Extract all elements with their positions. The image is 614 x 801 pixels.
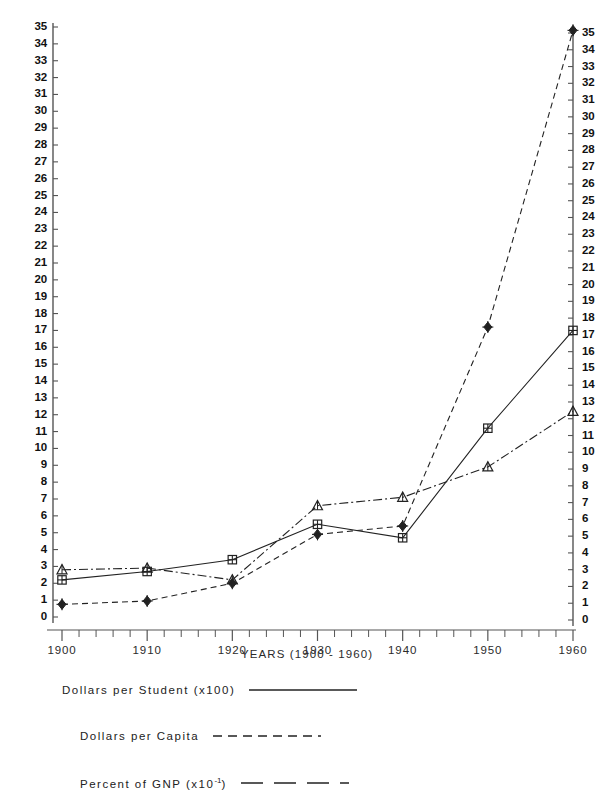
y-axis-left-tick-35: 35 — [35, 21, 47, 33]
y-axis-right-tick-31: 31 — [582, 94, 594, 106]
legend-item-1: Dollars per Capita — [80, 730, 323, 742]
legend-label-0: Dollars per Student (x100) — [62, 684, 235, 696]
y-axis-right-tick-7: 7 — [582, 497, 588, 509]
y-axis-right-tick-1: 1 — [582, 597, 588, 609]
y-axis-left-tick-15: 15 — [35, 358, 47, 370]
x-axis-tick-1950: 1950 — [473, 644, 502, 656]
y-axis-left-tick-9: 9 — [41, 459, 47, 471]
legend-item-0: Dollars per Student (x100) — [62, 684, 359, 696]
y-axis-right-tick-6: 6 — [582, 513, 588, 525]
legend-swatch-1 — [211, 730, 323, 742]
legend-exponent-2: -1 — [214, 776, 221, 785]
series-line-1 — [62, 30, 573, 604]
x-axis-tick-1910: 1910 — [133, 644, 162, 656]
y-axis-left-tick-3: 3 — [41, 560, 47, 572]
y-axis-right-tick-33: 33 — [582, 61, 594, 73]
y-axis-right-tick-0: 0 — [582, 614, 588, 626]
y-axis-right-tick-14: 14 — [582, 379, 594, 391]
y-axis-right-tick-27: 27 — [582, 161, 594, 173]
y-axis-right-tick-10: 10 — [582, 446, 594, 458]
y-axis-left-tick-22: 22 — [35, 240, 47, 252]
y-axis-left-tick-21: 21 — [35, 257, 47, 269]
y-axis-left-tick-24: 24 — [35, 206, 47, 218]
y-axis-left-tick-7: 7 — [41, 493, 47, 505]
y-axis-left-tick-30: 30 — [35, 105, 47, 117]
y-axis-right-tick-23: 23 — [582, 228, 594, 240]
y-axis-right-tick-8: 8 — [582, 480, 588, 492]
y-axis-left-tick-34: 34 — [35, 38, 47, 50]
y-axis-right-tick-11: 11 — [582, 430, 594, 442]
series-line-0 — [62, 330, 573, 580]
data-point-1-4 — [397, 520, 408, 532]
chart-page: 3534333231302928272625242322212019181716… — [0, 0, 614, 801]
y-axis-left-tick-28: 28 — [35, 139, 47, 151]
x-axis-title: YEARS (1900 - 1960) — [241, 648, 373, 660]
y-axis-left-tick-0: 0 — [41, 611, 47, 623]
y-axis-right-tick-9: 9 — [582, 463, 588, 475]
y-axis-right-tick-17: 17 — [582, 329, 594, 341]
y-axis-left-tick-20: 20 — [35, 274, 47, 286]
x-axis-tick-1960: 1960 — [558, 644, 587, 656]
y-axis-right-tick-22: 22 — [582, 245, 594, 257]
series-line-2 — [62, 411, 573, 580]
y-axis-left-tick-13: 13 — [35, 392, 47, 404]
data-point-1-1 — [142, 595, 153, 607]
legend-label-1: Dollars per Capita — [80, 730, 199, 742]
y-axis-left-tick-31: 31 — [35, 88, 47, 100]
chart-legend: Dollars per Student (x100)Dollars per Ca… — [0, 670, 614, 801]
y-axis-right-tick-4: 4 — [582, 547, 588, 559]
y-axis-right-tick-35: 35 — [582, 27, 594, 39]
series-lines — [62, 30, 573, 604]
y-axis-right-tick-30: 30 — [582, 111, 594, 123]
y-axis-left-tick-19: 19 — [35, 291, 47, 303]
chart-plot-region: 3534333231302928272625242322212019181716… — [0, 0, 614, 660]
data-point-0-2 — [228, 555, 236, 563]
y-axis-left-tick-6: 6 — [41, 510, 47, 522]
y-axis-left-tick-2: 2 — [41, 577, 47, 589]
y-axis-right-tick-34: 34 — [582, 44, 594, 56]
data-point-1-6 — [568, 24, 579, 36]
y-axis-left-tick-33: 33 — [35, 55, 47, 67]
y-axis-right-tick-24: 24 — [582, 211, 594, 223]
y-axis-left-tick-25: 25 — [35, 190, 47, 202]
y-axis-right-tick-15: 15 — [582, 362, 594, 374]
y-axis-right-tick-13: 13 — [582, 396, 594, 408]
y-axis-left-tick-29: 29 — [35, 122, 47, 134]
y-axis-right-tick-16: 16 — [582, 346, 594, 358]
legend-item-2: Percent of GNP (x10-1) — [80, 776, 351, 790]
data-point-1-3 — [312, 528, 323, 540]
legend-swatch-0 — [247, 684, 359, 696]
x-axis-tick-1900: 1900 — [47, 644, 76, 656]
y-axis-left-tick-18: 18 — [35, 308, 47, 320]
legend-swatch-2 — [239, 777, 351, 789]
data-point-0-3 — [313, 520, 321, 528]
y-axis-right-tick-20: 20 — [582, 279, 594, 291]
axis-lines — [47, 23, 576, 630]
y-axis-left-tick-8: 8 — [41, 476, 47, 488]
y-axis-left-tick-32: 32 — [35, 72, 47, 84]
y-axis-left-tick-17: 17 — [35, 324, 47, 336]
data-point-2-4 — [398, 492, 408, 501]
y-axis-left-tick-12: 12 — [35, 409, 47, 421]
y-axis-left-tick-5: 5 — [41, 527, 47, 539]
data-point-2-5 — [483, 462, 493, 471]
series-markers — [57, 24, 579, 610]
chart-svg — [0, 0, 614, 660]
y-axis-left-tick-10: 10 — [35, 442, 47, 454]
y-axis-left-tick-14: 14 — [35, 375, 47, 387]
data-point-1-5 — [482, 321, 493, 333]
y-axis-left-tick-4: 4 — [41, 544, 47, 556]
tick-marks — [53, 27, 573, 641]
y-axis-left-tick-11: 11 — [35, 426, 47, 438]
y-axis-right-tick-29: 29 — [582, 128, 594, 140]
x-axis-tick-1940: 1940 — [388, 644, 417, 656]
y-axis-right-tick-19: 19 — [582, 295, 594, 307]
data-point-0-0 — [58, 576, 66, 584]
y-axis-left-tick-27: 27 — [35, 156, 47, 168]
legend-label-2: Percent of GNP (x10-1) — [80, 776, 227, 790]
y-axis-left-tick-26: 26 — [35, 173, 47, 185]
y-axis-right-tick-26: 26 — [582, 178, 594, 190]
y-axis-left-tick-16: 16 — [35, 341, 47, 353]
y-axis-right-tick-32: 32 — [582, 77, 594, 89]
y-axis-left-tick-1: 1 — [41, 594, 47, 606]
